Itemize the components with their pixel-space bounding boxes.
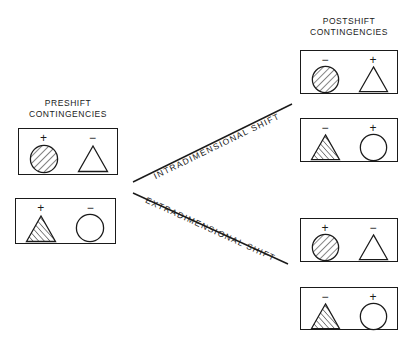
postshift-box-3-left-cell: + — [301, 219, 349, 261]
open-circle-icon — [349, 133, 397, 162]
preshift-title: PRESHIFT CONTINGENCIES — [18, 98, 118, 120]
postshift-box-1-left-cell: − — [301, 51, 349, 93]
hatched-circle-icon — [301, 65, 349, 94]
extradimensional-shift-label: EXTRADIMENSIONAL SHIFT — [144, 195, 277, 263]
sign-label: + — [369, 56, 376, 65]
postshift-title: POSTSHIFT CONTINGENCIES — [298, 16, 400, 38]
sign-label: − — [321, 124, 328, 133]
preshift-box-1-right-cell: − — [68, 129, 117, 174]
sign-label: + — [37, 204, 44, 213]
hatched-triangle-icon — [301, 133, 349, 161]
open-triangle-icon — [349, 65, 397, 93]
open-triangle-icon — [349, 233, 397, 261]
intradimensional-shift-label: INTRADIMENSIONAL SHIFT — [152, 111, 282, 181]
figure-canvas: PRESHIFT CONTINGENCIES POSTSHIFT CONTING… — [0, 0, 411, 346]
postshift-box-3-right-cell: − — [349, 219, 397, 261]
preshift-box-2[interactable]: + − — [15, 198, 116, 244]
sign-label: − — [87, 204, 94, 213]
open-triangle-icon — [68, 143, 117, 174]
postshift-box-3[interactable]: + − — [300, 218, 398, 262]
postshift-box-4-right-cell: + — [349, 288, 397, 329]
postshift-box-2-left-cell: − — [301, 119, 349, 161]
sign-label: − — [321, 56, 328, 65]
postshift-box-1-right-cell: + — [349, 51, 397, 93]
postshift-box-2-right-cell: + — [349, 119, 397, 161]
sign-label: − — [89, 134, 96, 143]
hatched-circle-icon — [301, 233, 349, 262]
postshift-box-4[interactable]: − + — [300, 287, 398, 330]
open-circle-icon — [349, 302, 397, 331]
postshift-box-2[interactable]: − + — [300, 118, 398, 162]
postshift-box-1[interactable]: − + — [300, 50, 398, 94]
hatched-circle-icon — [19, 143, 68, 174]
preshift-box-2-left-cell: + — [16, 199, 66, 243]
sign-label: − — [321, 293, 328, 302]
preshift-box-2-right-cell: − — [66, 199, 116, 243]
sign-label: + — [40, 134, 47, 143]
sign-label: − — [369, 224, 376, 233]
sign-label: + — [321, 224, 328, 233]
postshift-box-4-left-cell: − — [301, 288, 349, 329]
open-circle-icon — [66, 213, 116, 243]
preshift-box-1[interactable]: + − — [18, 128, 118, 175]
hatched-triangle-icon — [16, 213, 66, 243]
sign-label: + — [369, 293, 376, 302]
sign-label: + — [369, 124, 376, 133]
preshift-box-1-left-cell: + — [19, 129, 68, 174]
hatched-triangle-icon — [301, 302, 349, 330]
